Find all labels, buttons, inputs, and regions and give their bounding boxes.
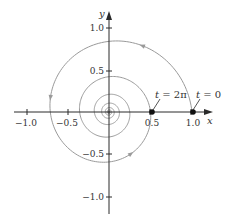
x-tick-label: −1.0 <box>15 118 37 128</box>
x-tick-label: 1.0 <box>186 118 201 128</box>
direction-arrow-icon <box>48 95 53 101</box>
annotation-t-0: t = 0 <box>193 89 221 110</box>
spiral-plot: −1.0 −0.5 0.5 1.0 x 1.0 0.5 −0.5 −1.0 y … <box>0 0 227 218</box>
x-axis-label: x <box>207 115 213 126</box>
y-tick-label: 0.5 <box>90 66 105 76</box>
y-tick-label: −1.0 <box>82 192 104 202</box>
x-tick-label: 0.5 <box>145 118 160 128</box>
svg-text:t = 2π: t = 2π <box>155 89 187 100</box>
spiral-curve <box>50 41 192 162</box>
y-axis-label: y <box>98 8 105 19</box>
svg-text:t = 0: t = 0 <box>196 89 221 100</box>
y-tick-label: −0.5 <box>82 149 104 159</box>
point-t-0 <box>190 109 196 115</box>
direction-arrow-icon <box>139 43 146 49</box>
y-axis-arrow-icon <box>106 11 112 20</box>
y-tick-label: 1.0 <box>90 23 105 33</box>
direction-arrows <box>48 43 146 157</box>
x-axis: −1.0 −0.5 0.5 1.0 x <box>14 109 213 128</box>
point-t-2pi <box>149 109 155 115</box>
annotation-t-2pi: t = 2π <box>153 89 187 110</box>
x-tick-label: −0.5 <box>56 118 78 128</box>
